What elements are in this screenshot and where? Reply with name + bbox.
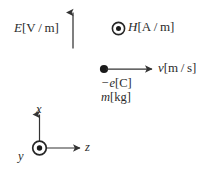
coordinate-axes xyxy=(33,115,80,155)
magnetic-field-unit: [A / m] xyxy=(137,19,174,34)
axis-z-label: z xyxy=(85,141,90,154)
electric-field-label: E[V / m] xyxy=(14,21,59,34)
magnetic-field-symbol: H xyxy=(128,19,137,34)
axis-x-label: x xyxy=(36,103,42,116)
charge-unit: [C] xyxy=(115,76,132,90)
axis-y-out-of-page-icon xyxy=(33,141,47,155)
mass-unit: [kg] xyxy=(110,90,131,104)
mass-label: m[kg] xyxy=(101,91,131,104)
axis-y-label: y xyxy=(18,150,24,163)
charge-symbol: −e xyxy=(101,76,115,90)
velocity-unit: [m / s] xyxy=(164,60,197,75)
physics-figure: E[V / m] H[A / m] v[m / s] −e[C] m[kg] x… xyxy=(0,0,213,171)
magnetic-field-out-of-page-icon xyxy=(112,22,124,34)
electric-field-unit: [V / m] xyxy=(22,20,59,35)
charge-label: −e[C] xyxy=(101,77,132,90)
mass-symbol: m xyxy=(101,90,110,104)
electric-field-symbol: E xyxy=(14,20,22,35)
magnetic-field-label: H[A / m] xyxy=(128,20,174,33)
velocity-label: v[m / s] xyxy=(158,61,196,74)
